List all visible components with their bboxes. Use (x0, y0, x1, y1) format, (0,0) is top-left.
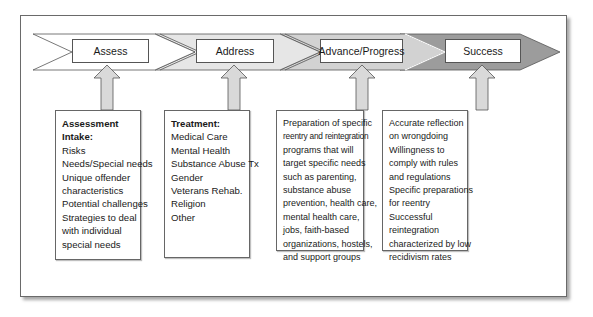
box-line: programs that will (283, 144, 358, 157)
advance-progress-box: Preparation of specific reentry and rein… (276, 110, 364, 251)
box-line: Specific preparations (389, 184, 462, 197)
treatment-box: Treatment: Medical Care Mental Health Su… (164, 110, 250, 258)
box-line: jobs, faith-based (283, 224, 358, 237)
success-box: Accurate reflection on wrongdoing Willin… (382, 110, 468, 251)
box-line: Needs/Special needs (62, 157, 135, 170)
box-line: Potential challenges (62, 197, 135, 210)
box-line: special needs (62, 238, 135, 251)
box-line: with individual (62, 224, 135, 237)
box-line: and support groups (283, 251, 358, 264)
up-arrow-icon (349, 65, 375, 110)
box-line: comply with rules (389, 157, 462, 170)
up-arrow-icon (221, 65, 247, 110)
box-line: Successful (389, 211, 462, 224)
stage-label-success: Success (445, 39, 521, 63)
box-line: Substance Abuse Tx (171, 157, 244, 170)
box-line: Accurate reflection (389, 117, 462, 130)
box-line: Willingness to (389, 144, 462, 157)
assessment-intake-box: Assessment Intake: Risks Needs/Special n… (55, 110, 141, 260)
box-line: characteristics (62, 184, 135, 197)
box-title: Assessment Intake: (62, 117, 135, 144)
box-line: Unique offender (62, 171, 135, 184)
box-line: Strategies to deal (62, 211, 135, 224)
box-line: characterized by low (389, 238, 462, 251)
box-line: Mental Health (171, 144, 244, 157)
box-line: prevention, health care, (283, 197, 358, 210)
stage-label-advance-progress: Advance/Progress (320, 39, 403, 63)
box-line: Other (171, 211, 244, 224)
box-line: recidivism rates (389, 251, 462, 264)
box-line: mental health care, (283, 211, 358, 224)
box-line: Risks (62, 144, 135, 157)
box-line: target specific needs (283, 157, 358, 170)
box-line: for reentry (389, 197, 462, 210)
box-line: substance abuse (283, 184, 358, 197)
box-line: reintegration (389, 224, 462, 237)
box-line: organizations, hostels, (283, 238, 358, 251)
box-line: Gender (171, 171, 244, 184)
box-line: on wrongdoing (389, 130, 462, 143)
box-line: and regulations (389, 171, 462, 184)
box-line: Preparation of specific (283, 117, 358, 130)
box-line: Religion (171, 197, 244, 210)
box-title: Treatment: (171, 117, 244, 130)
box-line: reentry and reintegration (283, 130, 358, 143)
stage-label-address: Address (196, 39, 274, 63)
stage-label-assess: Assess (72, 39, 149, 63)
up-arrow-icon (469, 65, 495, 110)
box-line: Medical Care (171, 130, 244, 143)
up-arrow-icon (94, 65, 120, 110)
box-line: Veterans Rehab. (171, 184, 244, 197)
box-line: such as parenting, (283, 171, 358, 184)
